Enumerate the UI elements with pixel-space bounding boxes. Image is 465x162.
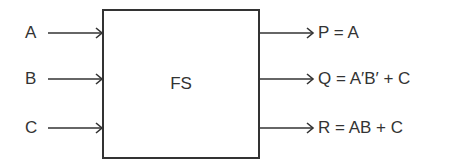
output-label-q: Q = A′B′ + C: [318, 69, 410, 89]
input-arrow-c: [48, 123, 102, 133]
block-label-fs: FS: [103, 74, 259, 94]
input-arrow-a: [48, 28, 102, 38]
input-label-a: A: [25, 23, 36, 43]
input-label-c: C: [25, 118, 37, 138]
input-label-b: B: [25, 69, 36, 89]
output-arrow-r: [260, 123, 313, 133]
input-arrow-b: [48, 74, 102, 84]
output-label-r: R = AB + C: [318, 118, 403, 138]
output-arrow-p: [260, 28, 313, 38]
output-arrow-q: [260, 74, 313, 84]
output-label-p: P = A: [318, 23, 359, 43]
